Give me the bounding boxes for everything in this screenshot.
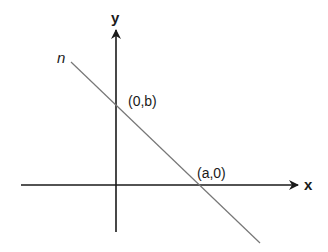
line-n-label: n	[57, 49, 65, 66]
x-axis-label: x	[304, 176, 313, 193]
y-intercept-label: (0,b)	[128, 93, 157, 109]
diagram-canvas: y x n (0,b) (a,0)	[0, 0, 328, 252]
y-axis-label: y	[111, 9, 120, 26]
line-n	[71, 62, 260, 243]
x-intercept-label: (a,0)	[197, 165, 226, 181]
coordinate-plane: y x n (0,b) (a,0)	[0, 0, 328, 252]
